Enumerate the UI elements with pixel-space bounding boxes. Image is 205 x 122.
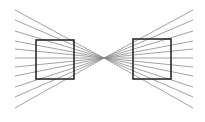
right-ray-line xyxy=(104,31,193,58)
right-ray-line xyxy=(104,58,193,76)
hering-illusion-diagram xyxy=(0,0,205,122)
right-ray-line xyxy=(104,41,193,58)
right-ray-line xyxy=(104,58,193,97)
left-ray-line xyxy=(15,58,104,97)
left-ray-line xyxy=(15,31,104,58)
left-ray-line xyxy=(15,10,104,58)
radiating-lines xyxy=(15,10,193,108)
left-ray-line xyxy=(15,58,104,76)
left-ray-line xyxy=(15,20,104,58)
right-ray-line xyxy=(104,10,193,58)
left-ray-line xyxy=(15,41,104,58)
